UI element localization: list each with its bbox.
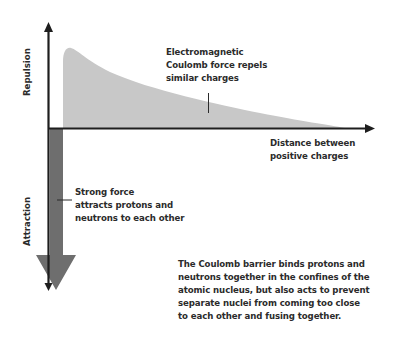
y-axis-down-arrowhead — [45, 283, 53, 291]
x-axis-arrowhead — [365, 124, 375, 133]
caption-line-2: neutrons together in the confines of the — [178, 271, 370, 284]
x-axis-label: Distance between positive charges — [270, 137, 355, 163]
caption-line-1: The Coulomb barrier binds protons and — [178, 258, 370, 271]
electromagnetic-annotation: Electromagnetic Coulomb force repels sim… — [166, 46, 267, 85]
y-axis-up-arrowhead — [44, 22, 53, 32]
repulsion-axis-label: Repulsion — [22, 48, 32, 96]
strong-force-line-2: attracts protons and — [75, 199, 184, 212]
caption: The Coulomb barrier binds protons and ne… — [178, 258, 370, 323]
electromagnetic-line-3: similar charges — [166, 72, 267, 85]
caption-line-3: atomic nucleus, but also acts to prevent — [178, 284, 370, 297]
x-axis-label-line-2: positive charges — [270, 150, 355, 163]
attraction-axis-label: Attraction — [22, 197, 32, 246]
strong-force-line-1: Strong force — [75, 186, 184, 199]
x-axis-label-line-1: Distance between — [270, 137, 355, 150]
attraction-arrow — [36, 128, 76, 290]
electromagnetic-line-2: Coulomb force repels — [166, 59, 267, 72]
strong-force-annotation: Strong force attracts protons and neutro… — [75, 186, 184, 225]
caption-line-4: separate nuclei from coming too close — [178, 297, 370, 310]
caption-line-5: to each other and fusing together. — [178, 310, 370, 323]
strong-force-line-3: neutrons to each other — [75, 212, 184, 225]
electromagnetic-line-1: Electromagnetic — [166, 46, 267, 59]
